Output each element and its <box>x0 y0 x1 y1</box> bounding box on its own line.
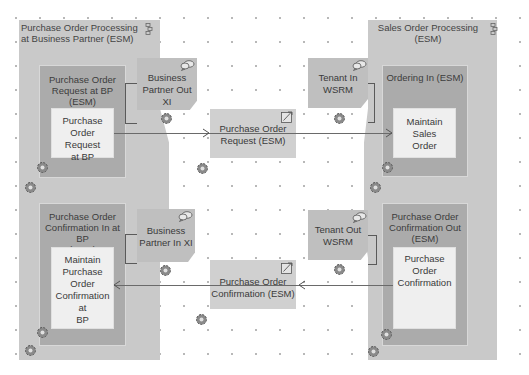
message-type-icon <box>281 111 293 123</box>
gear-icon[interactable] <box>24 181 37 194</box>
operation-purchase-order-request-at-bp[interactable]: Purchase Order Request at BP <box>51 108 114 158</box>
communication-channel-icon <box>180 60 195 71</box>
arrow-right-icon <box>384 128 394 138</box>
operation-maintain-sales-order[interactable]: Maintain Sales Order <box>393 108 456 158</box>
communication-channel-icon <box>352 60 367 71</box>
pool-right-title: Sales Order Processing (ESM) <box>368 22 488 44</box>
gear-icon[interactable] <box>367 345 380 358</box>
message-flow-confirmation <box>114 285 393 286</box>
gear-icon[interactable] <box>333 112 346 125</box>
gear-icon[interactable] <box>196 162 209 175</box>
arrow-left-icon <box>112 280 122 290</box>
gear-icon[interactable] <box>380 328 393 341</box>
gear-icon[interactable] <box>36 326 49 339</box>
operation-maintain-purchase-order-confirmation-at-bp[interactable]: Maintain Purchase Order Confirmation at … <box>51 247 114 329</box>
gear-icon[interactable] <box>369 181 382 194</box>
gear-icon[interactable] <box>333 263 346 276</box>
process-component-icon <box>490 23 498 35</box>
message-type-icon <box>281 262 293 274</box>
arrow-left-icon <box>297 280 307 290</box>
gear-icon[interactable] <box>160 112 173 125</box>
communication-channel-icon <box>178 211 193 222</box>
gear-icon[interactable] <box>159 264 172 277</box>
gear-icon[interactable] <box>381 161 394 174</box>
communication-channel-icon <box>352 212 367 223</box>
endpoint-binding-line <box>368 235 377 265</box>
gear-icon[interactable] <box>195 313 208 326</box>
diagram-canvas: Purchase Order Processing at Business Pa… <box>0 0 529 375</box>
arrow-right-icon <box>201 128 211 138</box>
endpoint-binding-line <box>125 83 137 124</box>
process-component-icon <box>145 23 153 35</box>
pool-left-title: Purchase Order Processing at Business Pa… <box>21 22 151 44</box>
endpoint-binding-line <box>125 234 137 264</box>
endpoint-binding-line <box>368 83 375 123</box>
gear-icon[interactable] <box>24 344 37 357</box>
message-flow-request <box>114 133 392 134</box>
gear-icon[interactable] <box>36 161 49 174</box>
operation-purchase-order-confirmation[interactable]: Purchase Order Confirmation <box>393 247 456 329</box>
